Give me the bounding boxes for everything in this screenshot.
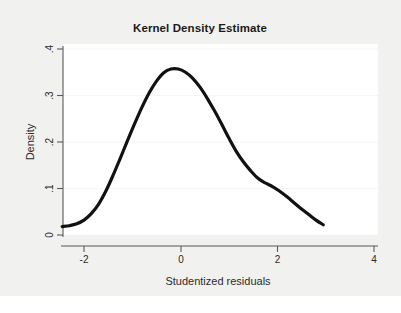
kernel-density-chart: Kernel Density Estimate 0 .1 .2 .3 .4 De…	[0, 0, 401, 296]
x-axis: -2 0 2 4 Studentized residuals	[61, 246, 378, 287]
x-tick-label-0: 0	[178, 254, 184, 265]
y-tick-label-0.2: .2	[44, 137, 55, 146]
figure-panel: Kernel Density Estimate 0 .1 .2 .3 .4 De…	[0, 0, 401, 296]
y-tick-label-0.4: .4	[44, 44, 55, 53]
y-tick-label-0.1: .1	[44, 184, 55, 193]
chart-container: Kernel Density Estimate 0 .1 .2 .3 .4 De…	[0, 0, 401, 296]
x-tick-label-2: 2	[275, 254, 281, 265]
y-tick-label-0.3: .3	[44, 91, 55, 100]
plot-area-background	[63, 44, 378, 235]
x-axis-title: Studentized residuals	[165, 275, 271, 287]
chart-title: Kernel Density Estimate	[133, 22, 267, 34]
y-axis: 0 .1 .2 .3 .4 Density	[24, 44, 63, 237]
y-axis-title: Density	[24, 123, 36, 160]
x-tick-label-4: 4	[371, 254, 377, 265]
y-tick-label-0: 0	[44, 232, 55, 238]
x-tick-label--2: -2	[80, 254, 89, 265]
